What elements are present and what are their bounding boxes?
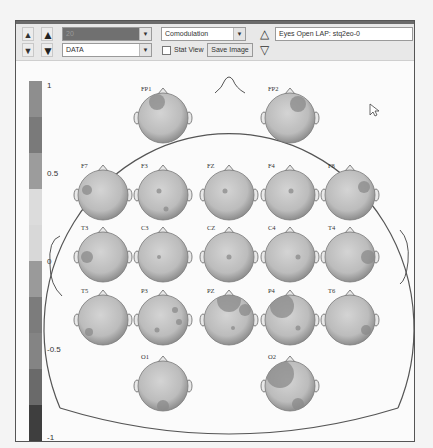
electrode-head-o1[interactable]: O1 bbox=[134, 353, 192, 412]
activity-spot bbox=[296, 255, 301, 260]
electrode-label: PZ bbox=[207, 287, 215, 294]
electrode-label: O1 bbox=[141, 353, 149, 360]
activity-spot bbox=[157, 189, 162, 194]
electrode-label: C4 bbox=[268, 224, 276, 231]
electrode-label: F3 bbox=[141, 162, 148, 169]
activity-spot bbox=[270, 294, 294, 318]
activity-spot bbox=[239, 304, 251, 316]
electrode-head-c4[interactable]: C4 bbox=[261, 224, 319, 282]
activity-spot bbox=[157, 400, 169, 412]
topographic-map: FP1FP2F7F3FZF4F8T3C3CZC4T4T5P3PZP4T6O1O2 bbox=[0, 0, 433, 448]
activity-spot bbox=[155, 328, 160, 333]
electrode-head-c3[interactable]: C3 bbox=[134, 224, 192, 282]
electrode-label: F8 bbox=[328, 162, 335, 169]
electrode-label: O2 bbox=[268, 353, 276, 360]
electrode-head-fp2[interactable]: FP2 bbox=[261, 85, 319, 143]
activity-spot bbox=[358, 181, 370, 193]
mouse-cursor-icon bbox=[370, 104, 379, 116]
electrode-label: T3 bbox=[81, 224, 88, 231]
electrode-label: P4 bbox=[268, 287, 276, 294]
activity-spot bbox=[172, 307, 178, 313]
electrode-head-f3[interactable]: F3 bbox=[134, 162, 192, 220]
activity-spot bbox=[223, 189, 228, 194]
electrode-label: FZ bbox=[207, 162, 215, 169]
electrode-head-f4[interactable]: F4 bbox=[261, 162, 319, 220]
activity-spot bbox=[149, 94, 165, 110]
electrode-label: CZ bbox=[207, 224, 215, 231]
activity-spot bbox=[176, 319, 182, 325]
activity-spot bbox=[81, 251, 93, 263]
activity-spot bbox=[361, 250, 375, 264]
activity-spot bbox=[231, 326, 235, 330]
electrode-head-f8[interactable]: F8 bbox=[321, 162, 379, 220]
electrode-head-cz[interactable]: CZ bbox=[200, 224, 258, 282]
electrode-head-p4[interactable]: P4 bbox=[261, 287, 319, 345]
nose-icon bbox=[215, 77, 245, 93]
electrode-label: FP2 bbox=[268, 85, 278, 92]
electrode-head-fp1[interactable]: FP1 bbox=[134, 85, 192, 143]
electrode-head-o2[interactable]: O2 bbox=[261, 353, 319, 411]
electrode-head-fz[interactable]: FZ bbox=[200, 162, 258, 220]
electrode-head-t5[interactable]: T5 bbox=[74, 287, 132, 345]
electrode-label: F7 bbox=[81, 162, 89, 169]
activity-spot bbox=[290, 96, 306, 112]
electrode-head-pz[interactable]: PZ bbox=[200, 287, 258, 345]
electrode-head-t4[interactable]: T4 bbox=[321, 224, 379, 282]
activity-spot bbox=[82, 185, 92, 195]
electrode-label: T4 bbox=[328, 224, 336, 231]
activity-spot bbox=[85, 328, 93, 336]
electrode-head-t6[interactable]: T6 bbox=[321, 287, 379, 345]
electrode-label: T6 bbox=[328, 287, 336, 294]
electrode-label: C3 bbox=[141, 224, 149, 231]
electrode-label: FP1 bbox=[141, 85, 151, 92]
electrode-head-t3[interactable]: T3 bbox=[74, 224, 132, 282]
activity-spot bbox=[296, 326, 301, 331]
activity-spot bbox=[157, 255, 161, 259]
activity-spot bbox=[289, 189, 294, 194]
activity-spot bbox=[227, 255, 232, 260]
activity-spot bbox=[266, 360, 294, 388]
electrode-label: F4 bbox=[268, 162, 276, 169]
electrode-label: T5 bbox=[81, 287, 88, 294]
electrode-head-f7[interactable]: F7 bbox=[74, 162, 132, 220]
left-ear-icon bbox=[50, 236, 62, 296]
activity-spot bbox=[361, 325, 371, 335]
activity-spot bbox=[164, 207, 169, 212]
electrode-head-p3[interactable]: P3 bbox=[134, 287, 192, 345]
electrode-label: P3 bbox=[141, 287, 148, 294]
